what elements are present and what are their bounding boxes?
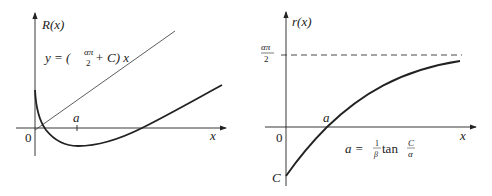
left-plot: R(x) 0 x a y = ( απ 2 + C) x <box>16 13 226 156</box>
right-origin-label: 0 <box>276 130 283 145</box>
left-a-label: a <box>73 110 80 125</box>
line-eq-frac-den: 2 <box>86 58 91 68</box>
line-eq-suffix: + C) x <box>95 50 129 65</box>
a-formula: a = 1 β tan C α <box>345 138 415 159</box>
line-equation: y = ( απ 2 + C) x <box>43 47 129 68</box>
formula-func: tan <box>382 141 398 156</box>
formula-frac1-num: 1 <box>375 139 379 148</box>
left-y-axis-label: R(x) <box>41 17 64 32</box>
right-a-label: a <box>323 110 330 125</box>
asymptote-frac-num: απ <box>261 42 271 52</box>
formula-frac2-num: C <box>408 138 415 148</box>
right-x-axis-label: x <box>459 128 466 143</box>
right-plot: r(x) απ 2 0 x a C a = 1 β tan C α <box>261 12 476 186</box>
asymptote-frac-den: 2 <box>264 54 269 64</box>
formula-lhs: a = <box>345 141 364 156</box>
asymptote-label: απ 2 <box>261 42 274 64</box>
figure: R(x) 0 x a y = ( απ 2 + C) x r(x) απ 2 0… <box>0 0 492 196</box>
asymptote-line <box>35 31 175 130</box>
left-origin-label: 0 <box>25 130 32 145</box>
left-x-axis-label: x <box>209 128 216 143</box>
right-y-axis-label: r(x) <box>292 14 312 29</box>
formula-frac1-den: β <box>373 150 378 159</box>
formula-frac2-den: α <box>408 149 413 159</box>
line-eq-prefix: y = ( <box>43 50 71 65</box>
r-curve <box>286 61 460 176</box>
line-eq-frac-num: απ <box>84 47 94 57</box>
right-C-label: C <box>272 170 281 185</box>
R-curve <box>35 85 222 146</box>
